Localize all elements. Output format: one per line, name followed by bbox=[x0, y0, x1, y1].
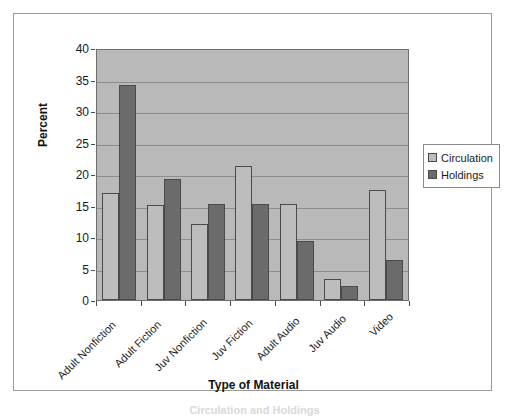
bar[interactable] bbox=[235, 166, 252, 300]
y-tick-label: 15 bbox=[76, 199, 89, 215]
y-tick-label: 30 bbox=[76, 104, 89, 120]
bar[interactable] bbox=[297, 241, 314, 300]
y-tick-mark bbox=[91, 144, 95, 145]
bar[interactable] bbox=[208, 204, 225, 300]
y-tick-mark bbox=[91, 175, 95, 176]
chart-legend: CirculationHoldings bbox=[423, 144, 500, 188]
y-axis: 0510152025303540 bbox=[69, 41, 95, 309]
bar-group bbox=[141, 50, 185, 300]
x-axis-labels: Adult NonfictionAdult FictionJuv Nonfict… bbox=[74, 304, 434, 374]
figure-container: Percent 0510152025303540 Adult Nonfictio… bbox=[0, 0, 509, 417]
x-axis-title: Type of Material bbox=[14, 378, 493, 392]
y-tick-mark bbox=[91, 270, 95, 271]
y-tick-label: 20 bbox=[76, 167, 89, 183]
legend-item[interactable]: Circulation bbox=[428, 149, 493, 166]
x-tick-label: Juv Fiction bbox=[209, 316, 255, 362]
plot-area bbox=[96, 49, 409, 301]
y-tick-label: 25 bbox=[76, 136, 89, 152]
bar-series-container bbox=[97, 50, 408, 300]
bar-group bbox=[275, 50, 319, 300]
bar-group bbox=[97, 50, 141, 300]
legend-label: Holdings bbox=[441, 169, 484, 181]
bar[interactable] bbox=[119, 85, 136, 300]
legend-swatch-icon bbox=[428, 170, 437, 179]
x-tick-label: Video bbox=[367, 310, 395, 338]
bar[interactable] bbox=[341, 286, 358, 300]
bar[interactable] bbox=[102, 193, 119, 300]
y-axis-title: Percent bbox=[36, 103, 50, 147]
y-tick-label: 40 bbox=[76, 41, 89, 57]
bar[interactable] bbox=[164, 179, 181, 300]
legend-item[interactable]: Holdings bbox=[428, 166, 493, 183]
bar[interactable] bbox=[386, 260, 403, 300]
bar[interactable] bbox=[252, 204, 269, 300]
bar[interactable] bbox=[369, 190, 386, 300]
bar[interactable] bbox=[191, 224, 208, 300]
x-tick-label: Adult Audio bbox=[254, 314, 302, 362]
bar[interactable] bbox=[280, 204, 297, 300]
y-tick-label: 35 bbox=[76, 73, 89, 89]
figure-frame: Percent 0510152025303540 Adult Nonfictio… bbox=[13, 13, 492, 391]
bar-group bbox=[364, 50, 408, 300]
bar-group bbox=[186, 50, 230, 300]
bar-group bbox=[230, 50, 274, 300]
legend-label: Circulation bbox=[441, 152, 493, 164]
figure-caption: Circulation and Holdings bbox=[0, 404, 509, 417]
bar[interactable] bbox=[147, 205, 164, 300]
legend-swatch-icon bbox=[428, 153, 437, 162]
bar[interactable] bbox=[324, 279, 341, 300]
y-tick-label: 10 bbox=[76, 230, 89, 246]
bar-group bbox=[319, 50, 363, 300]
y-tick-mark bbox=[91, 207, 95, 208]
y-tick-mark bbox=[91, 81, 95, 82]
y-tick-mark bbox=[91, 112, 95, 113]
y-tick-mark bbox=[91, 238, 95, 239]
x-tick-label: Adult Nonfiction bbox=[55, 319, 118, 382]
y-tick-mark bbox=[91, 301, 95, 302]
y-tick-mark bbox=[91, 49, 95, 50]
x-tick-label: Juv Audio bbox=[306, 312, 348, 354]
y-tick-label: 5 bbox=[82, 262, 89, 278]
